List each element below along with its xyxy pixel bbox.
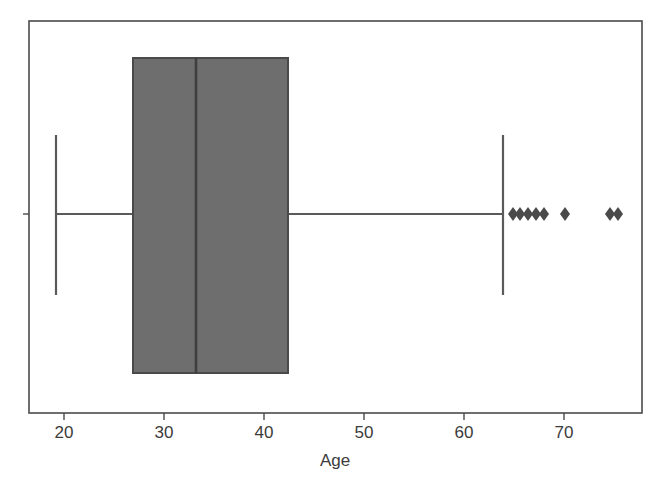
x-tick-label-0: 20 <box>55 423 74 442</box>
figure-canvas: 20 30 40 50 60 70 Age <box>0 0 661 484</box>
x-tick-label-5: 70 <box>555 423 574 442</box>
axes-background <box>29 21 642 413</box>
x-tick-label-1: 30 <box>155 423 174 442</box>
x-axis-title: Age <box>320 451 350 470</box>
box-plot-svg: 20 30 40 50 60 70 Age <box>0 0 661 484</box>
x-tick-label-2: 40 <box>255 423 274 442</box>
box-iqr <box>133 58 288 373</box>
x-tick-label-4: 60 <box>455 423 474 442</box>
x-tick-label-3: 50 <box>355 423 374 442</box>
